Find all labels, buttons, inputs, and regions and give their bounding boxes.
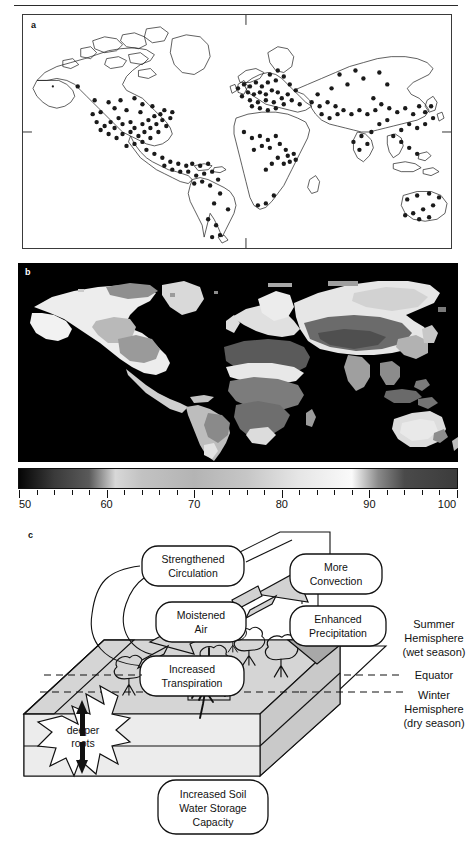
colorbar: 5060708090100: [18, 468, 458, 512]
colorbar-tick-label: 70: [188, 498, 200, 510]
node-label: Moistened: [177, 609, 226, 621]
colorbar-tick: [194, 490, 195, 498]
node-label: Transpiration: [162, 677, 223, 689]
node-label: Increased: [169, 663, 215, 675]
node-label: Enhanced: [314, 613, 361, 625]
node-label: Circulation: [168, 567, 218, 579]
site-markers: [52, 68, 451, 239]
colorbar-tick: [334, 490, 335, 495]
panel-a-map: [23, 15, 451, 248]
node-label: Strengthened: [161, 553, 224, 565]
node-label: Precipitation: [309, 627, 367, 639]
colorbar-tick: [19, 490, 20, 498]
panel-b-raster: [18, 263, 458, 462]
node-moistened-air: Moistened Air: [156, 602, 246, 642]
label-summer-hemisphere: Summer Hemisphere (wet season): [403, 618, 466, 658]
panel-b: b: [18, 263, 458, 462]
colorbar-tick: [159, 490, 160, 495]
colorbar-tick: [404, 490, 405, 495]
colorbar-tick-label: 100: [438, 498, 456, 510]
colorbar-tick: [282, 490, 283, 498]
panel-b-letter: b: [25, 267, 31, 277]
node-label: More: [324, 561, 348, 573]
colorbar-tick: [142, 490, 143, 495]
colorbar-tick-label: 60: [100, 498, 112, 510]
colorbar-tick: [212, 490, 213, 495]
figure-root: a: [0, 0, 472, 849]
colorbar-tick: [247, 490, 248, 495]
summer-line2: Hemisphere: [404, 632, 463, 644]
colorbar-tick-label: 80: [276, 498, 288, 510]
colorbar-tick: [317, 490, 318, 495]
colorbar-tick: [229, 490, 230, 495]
colorbar-tick: [54, 490, 55, 495]
node-label: Air: [195, 623, 208, 635]
winter-line3: (dry season): [403, 717, 464, 729]
colorbar-tick: [352, 490, 353, 495]
colorbar-tick: [72, 490, 73, 495]
node-label: Increased Soil: [180, 788, 247, 800]
node-label: Water Storage: [179, 802, 246, 814]
panel-c-letter: c: [28, 530, 33, 540]
node-label: Convection: [310, 575, 363, 587]
colorbar-tick: [422, 490, 423, 495]
node-enhanced-precipitation: Enhanced Precipitation: [290, 606, 386, 646]
panel-a-letter: a: [31, 20, 36, 30]
summer-line1: Summer: [413, 618, 455, 630]
node-more-convection: More Convection: [290, 554, 382, 594]
deeper-roots-line1: deeper: [67, 724, 100, 736]
deeper-roots-line2: roots: [71, 737, 94, 749]
colorbar-tick: [107, 490, 108, 498]
colorbar-tick: [457, 490, 458, 498]
node-strengthened-circulation: Strengthened Circulation: [142, 546, 244, 586]
top-rule: [14, 5, 458, 6]
panel-c-diagram: deeper roots: [0, 518, 472, 849]
panel-c: c: [0, 518, 472, 849]
colorbar-tick: [177, 490, 178, 495]
colorbar-tick: [299, 490, 300, 495]
colorbar-tick: [439, 490, 440, 495]
label-equator: Equator: [415, 669, 454, 681]
colorbar-ticks: [18, 490, 458, 498]
colorbar-gradient: [18, 468, 458, 489]
panel-a: a: [22, 14, 452, 249]
colorbar-tick: [89, 490, 90, 495]
winter-line1: Winter: [418, 689, 450, 701]
colorbar-tick: [264, 490, 265, 495]
summer-line3: (wet season): [403, 646, 466, 658]
colorbar-tick-label: 50: [19, 498, 31, 510]
colorbar-tick: [387, 490, 388, 495]
node-label: Capacity: [193, 816, 235, 828]
colorbar-tick-label: 90: [363, 498, 375, 510]
colorbar-tick: [369, 490, 370, 498]
winter-line2: Hemisphere: [404, 703, 463, 715]
colorbar-tick: [37, 490, 38, 495]
colorbar-tick: [124, 490, 125, 495]
label-winter-hemisphere: Winter Hemisphere (dry season): [403, 689, 464, 729]
node-increased-soil-water-storage: Increased Soil Water Storage Capacity: [158, 780, 268, 834]
node-increased-transpiration: Increased Transpiration: [140, 656, 244, 696]
colorbar-tick-labels: 5060708090100: [18, 498, 458, 512]
